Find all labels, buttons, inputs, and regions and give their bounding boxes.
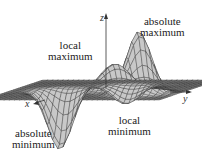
absolute-minimum-label: absolute minimum: [12, 128, 55, 150]
local-maximum-label: local maximum: [48, 40, 93, 62]
x-axis-label: x: [25, 98, 29, 109]
absolute-maximum-label: absolute maximum: [140, 16, 185, 38]
y-axis-label: y: [183, 93, 187, 104]
z-axis-label: z: [100, 12, 104, 23]
extrema-surface-diagram: z y x absolute maximum local maximum loc…: [0, 0, 202, 159]
local-minimum-label: local minimum: [108, 115, 151, 137]
